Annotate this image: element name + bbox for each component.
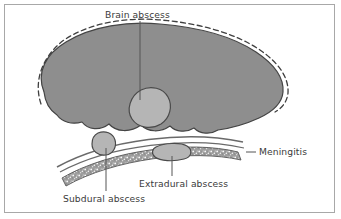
label-brain-abscess: Brain abscess: [105, 9, 170, 20]
label-extradural-abscess: Extradural abscess: [139, 178, 228, 189]
figure-page: Brain abscess Meningitis Extradural absc…: [0, 0, 341, 219]
label-meningitis: Meningitis: [259, 146, 307, 157]
subdural-abscess-blob: [92, 132, 116, 155]
label-subdural-abscess: Subdural abscess: [63, 193, 145, 204]
brain-abscess-blob: [129, 88, 170, 128]
